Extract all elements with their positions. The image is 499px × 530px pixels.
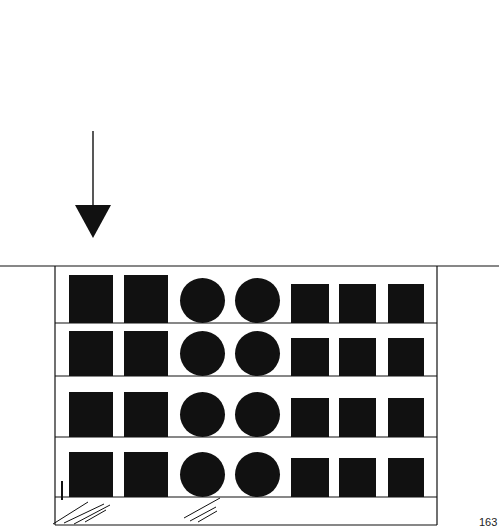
circle-item (180, 278, 225, 323)
large-square-item (69, 331, 113, 376)
small-square-item (388, 284, 424, 323)
small-square-item (388, 398, 424, 437)
small-square-item (339, 338, 376, 376)
large-square-item (124, 331, 168, 376)
small-square-item (388, 458, 424, 497)
shelf-diagram (0, 0, 499, 530)
small-square-item (339, 284, 376, 323)
small-square-item (291, 338, 329, 376)
small-square-item (291, 284, 329, 323)
floor-hatch-left (53, 502, 110, 524)
shelves (55, 275, 437, 497)
hatch-line (53, 502, 88, 524)
small-square-item (388, 338, 424, 376)
circle-item (180, 452, 225, 497)
circle-item (180, 392, 225, 437)
large-square-item (124, 275, 168, 323)
shelf-row-4 (55, 452, 437, 497)
down-arrow-icon (75, 131, 111, 238)
small-square-item (291, 458, 329, 497)
circle-item (235, 331, 280, 376)
page-number: 163 (479, 516, 497, 528)
shelf-row-1 (55, 275, 437, 323)
large-square-item (69, 452, 113, 497)
arrow-head (75, 205, 111, 238)
circle-item (235, 392, 280, 437)
hatch-line (198, 511, 217, 522)
large-square-item (69, 392, 113, 437)
floor-hatch-right (184, 498, 220, 522)
circle-item (235, 452, 280, 497)
circle-item (180, 331, 225, 376)
large-square-item (124, 452, 168, 497)
large-square-item (124, 392, 168, 437)
shelf-row-2 (55, 331, 437, 376)
small-square-item (339, 398, 376, 437)
small-square-item (291, 398, 329, 437)
large-square-item (69, 275, 113, 323)
floor-hatching (53, 498, 220, 524)
shelf-row-3 (55, 392, 437, 437)
circle-item (235, 278, 280, 323)
small-square-item (339, 458, 376, 497)
